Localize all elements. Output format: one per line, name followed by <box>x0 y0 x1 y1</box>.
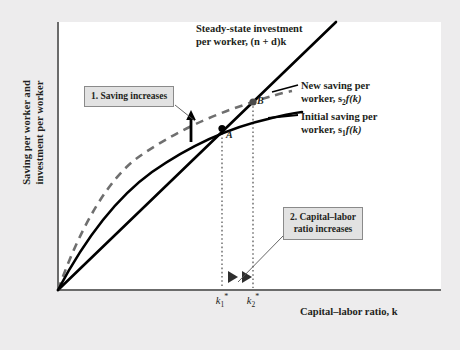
x-tick-k1-sup: * <box>224 292 228 301</box>
initial-saving-label-tail: f(k) <box>346 124 362 135</box>
point-b-label: B <box>257 95 264 106</box>
initial-saving-label-line2: worker, s <box>301 124 342 135</box>
point-a-marker <box>218 125 225 132</box>
callout-saving-increases: 1. Saving increases <box>84 86 174 107</box>
callout-2-line2: ratio increases <box>294 224 353 234</box>
steady-state-line <box>58 22 336 290</box>
point-a-label: A <box>226 129 233 140</box>
y-axis-label: Saving per worker and investment per wor… <box>21 18 46 248</box>
new-saving-label-tail: f(k) <box>346 93 362 104</box>
steady-state-label: Steady-state investment per worker, (n +… <box>196 22 302 48</box>
figure-container: Saving per worker and investment per wor… <box>0 0 460 350</box>
x-tick-k1: k1* <box>205 292 239 309</box>
x-tick-k2-sup: * <box>255 292 259 301</box>
x-tick-k2: k2* <box>236 292 270 309</box>
steady-state-label-line2: per worker, (n + d)k <box>196 36 286 47</box>
y-axis-label-line2: investment per worker <box>33 81 44 185</box>
initial-saving-label: Initial saving per worker, s1f(k) <box>301 110 377 140</box>
new-saving-label-line2: worker, s <box>301 93 342 104</box>
callout-ratio-increases: 2. Capital–labor ratio increases <box>283 207 363 240</box>
new-saving-label: New saving per worker, s2f(k) <box>301 79 370 109</box>
point-b-marker <box>249 98 256 105</box>
callout-2-leader <box>238 236 283 282</box>
initial-saving-label-line1: Initial saving per <box>301 111 377 122</box>
callout-2-line1: 2. Capital–labor <box>290 212 356 222</box>
x-axis-label: Capital–labor ratio, k <box>300 306 398 317</box>
steady-state-label-line1: Steady-state investment <box>196 23 302 34</box>
new-saving-label-line1: New saving per <box>301 80 370 91</box>
initial-saving-curve <box>58 112 302 290</box>
ratio-shift-arrows <box>228 271 252 283</box>
y-axis-label-line1: Saving per worker and <box>21 80 32 185</box>
new-saving-leader <box>272 85 298 92</box>
